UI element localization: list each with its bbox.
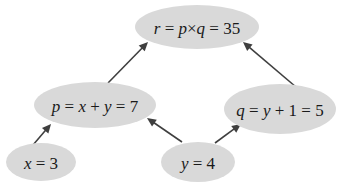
arrowhead-icon	[147, 118, 157, 127]
node-label: p = x + y = 7	[51, 97, 139, 116]
edge-line	[33, 130, 46, 145]
node-p: p = x + y = 7	[34, 82, 156, 128]
node-label: r = p×q = 35	[154, 19, 240, 38]
variable-symbol: p	[51, 97, 61, 116]
variable-symbol: p	[178, 19, 188, 38]
node-r: r = p×q = 35	[135, 5, 259, 49]
expression-text: =	[245, 101, 263, 120]
edge-line	[154, 123, 182, 142]
expression-text: = 3	[31, 154, 58, 173]
node-label: q = y + 1 = 5	[236, 101, 323, 120]
edge-q-to-r	[243, 42, 296, 87]
node-q: q = y + 1 = 5	[224, 84, 336, 134]
edge-p-to-r	[108, 42, 148, 83]
edge-line	[249, 47, 296, 87]
edge-y-to-p	[147, 118, 182, 142]
edge-line	[215, 129, 235, 143]
edge-x-to-p	[33, 124, 51, 145]
expression-text: = 4	[188, 154, 215, 173]
expression-text: ×	[187, 19, 197, 38]
edge-line	[108, 48, 142, 83]
variable-symbol: y	[261, 101, 271, 120]
expression-text: + 1 = 5	[270, 101, 323, 120]
computation-graph: r = p×q = 35p = x + y = 7q = y + 1 = 5x …	[0, 0, 346, 189]
node-x: x = 3	[6, 143, 76, 181]
edge-y-to-q	[215, 124, 241, 143]
node-label: y = 4	[179, 154, 216, 173]
node-label: x = 3	[23, 154, 58, 173]
node-y: y = 4	[161, 142, 235, 182]
expression-text: =	[160, 19, 178, 38]
expression-text: = 35	[205, 19, 240, 38]
variable-symbol: y	[179, 154, 189, 173]
expression-text: =	[60, 97, 78, 116]
nodes: r = p×q = 35p = x + y = 7q = y + 1 = 5x …	[6, 5, 336, 182]
expression-text: +	[86, 97, 104, 116]
variable-symbol: y	[102, 97, 112, 116]
expression-text: = 7	[112, 97, 139, 116]
